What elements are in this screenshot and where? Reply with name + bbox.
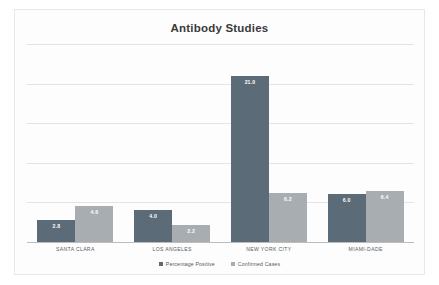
category-axis-labels: SANTA CLARALOS ANGELESNEW YORK CITYMIAMI… — [27, 246, 414, 252]
bar-value-label: 6.2 — [269, 196, 307, 202]
plot-area: 2.84.64.02.221.06.26.06.4 — [27, 44, 414, 242]
chart-title: Antibody Studies — [15, 22, 424, 34]
bar-value-label: 4.0 — [134, 213, 172, 219]
bar-1[interactable]: 6.0 — [328, 194, 366, 242]
bar-value-label: 4.6 — [75, 209, 113, 215]
bar-1[interactable]: 21.0 — [231, 76, 269, 242]
category-label: LOS ANGELES — [124, 246, 221, 252]
bar-value-label: 6.4 — [366, 194, 404, 200]
bar-group: 21.06.2 — [221, 44, 318, 242]
bar-value-label: 2.8 — [37, 223, 75, 229]
bar-group: 4.02.2 — [124, 44, 221, 242]
chart-container: Antibody Studies 2.84.64.02.221.06.26.06… — [14, 9, 425, 275]
x-axis-line — [27, 242, 414, 243]
legend-item[interactable]: Confirmed Cases — [231, 261, 280, 267]
bar-value-label: 6.0 — [328, 197, 366, 203]
bar-value-label: 2.2 — [172, 228, 210, 234]
legend-swatch-icon — [231, 262, 235, 266]
bar-2[interactable]: 4.6 — [75, 206, 113, 242]
bar-1[interactable]: 4.0 — [134, 210, 172, 242]
bar-2[interactable]: 6.2 — [269, 193, 307, 242]
category-label: MIAMI-DADE — [317, 246, 414, 252]
bar-group: 6.06.4 — [317, 44, 414, 242]
bar-groups: 2.84.64.02.221.06.26.06.4 — [27, 44, 414, 242]
bar-1[interactable]: 2.8 — [37, 220, 75, 242]
bar-2[interactable]: 6.4 — [366, 191, 404, 242]
legend-label: Percentage Positive — [166, 261, 215, 267]
bar-group: 2.84.6 — [27, 44, 124, 242]
chart-legend: Percentage PositiveConfirmed Cases — [15, 261, 424, 267]
bar-2[interactable]: 2.2 — [172, 225, 210, 242]
legend-swatch-icon — [159, 262, 163, 266]
legend-label: Confirmed Cases — [238, 261, 280, 267]
legend-item[interactable]: Percentage Positive — [159, 261, 215, 267]
bar-value-label: 21.0 — [231, 79, 269, 85]
category-label: NEW YORK CITY — [221, 246, 318, 252]
category-label: SANTA CLARA — [27, 246, 124, 252]
